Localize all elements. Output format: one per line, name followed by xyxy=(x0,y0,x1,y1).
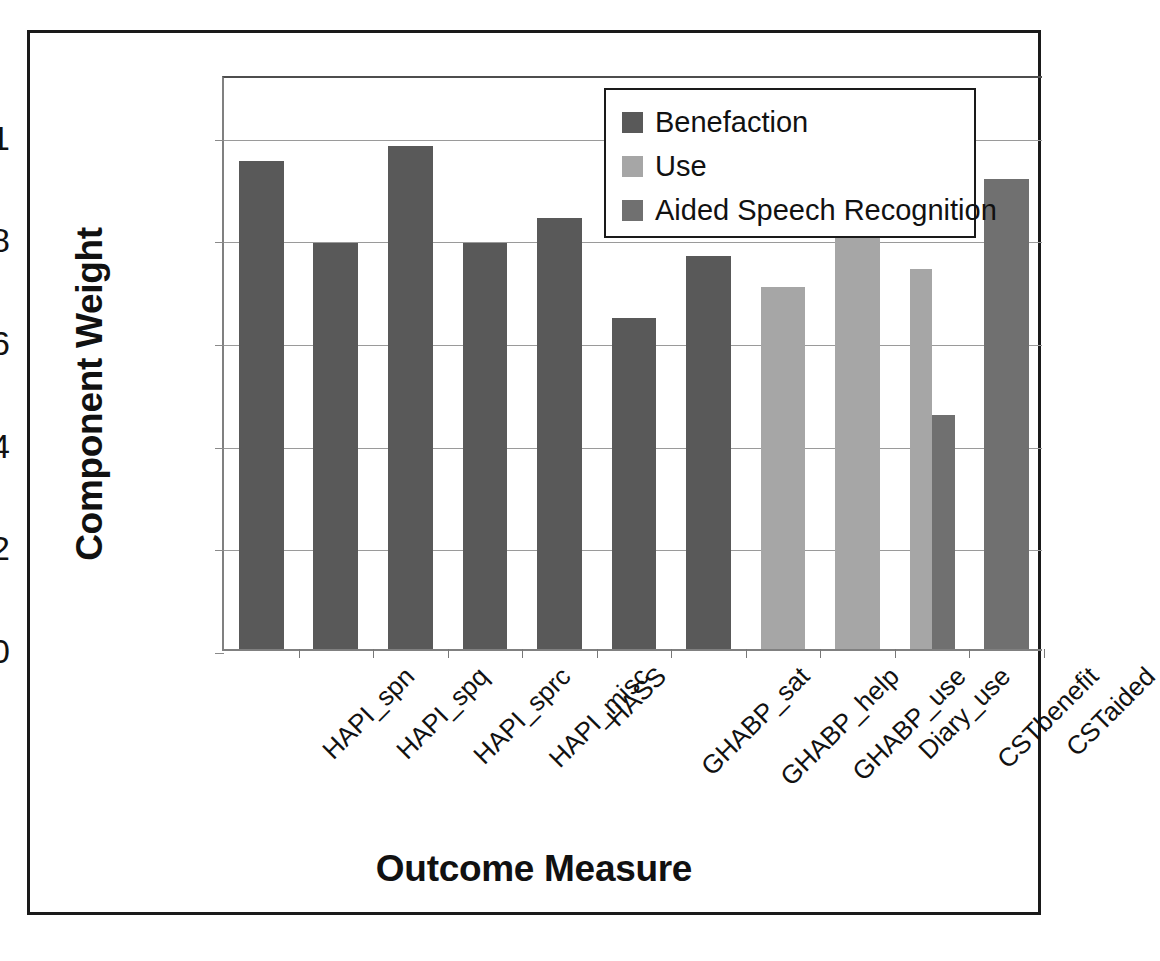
x-axis-tick xyxy=(1044,649,1045,658)
chart-legend: BenefactionUseAided Speech Recognition xyxy=(604,88,976,238)
y-axis-tick xyxy=(215,242,224,243)
legend-swatch-icon xyxy=(622,156,643,177)
y-axis-tick xyxy=(215,550,224,551)
bar xyxy=(761,287,806,649)
x-axis-tick xyxy=(820,649,821,658)
legend-swatch-icon xyxy=(622,112,643,133)
x-axis-tick xyxy=(597,649,598,658)
legend-label: Use xyxy=(655,152,707,181)
legend-label: Benefaction xyxy=(655,108,808,137)
y-axis-tick xyxy=(215,140,224,141)
bar xyxy=(239,161,284,649)
x-axis-tick xyxy=(522,649,523,658)
bar xyxy=(932,415,954,649)
bar xyxy=(537,218,582,649)
y-axis-tick xyxy=(215,448,224,449)
y-axis-tick xyxy=(215,653,224,654)
y-axis-tick xyxy=(215,345,224,346)
legend-item: Benefaction xyxy=(622,100,974,144)
x-axis-tick xyxy=(373,649,374,658)
bar xyxy=(910,269,932,649)
x-axis-title: Outcome Measure xyxy=(30,848,1038,890)
y-axis-tick-label: 0 xyxy=(0,632,10,671)
bar xyxy=(835,238,880,649)
y-axis-title: Component Weight xyxy=(69,134,111,654)
legend-item: Use xyxy=(622,144,974,188)
bar xyxy=(686,256,731,649)
x-axis-tick xyxy=(448,649,449,658)
bar xyxy=(612,318,657,649)
x-axis-tick xyxy=(671,649,672,658)
x-axis-tick xyxy=(299,649,300,658)
y-axis-tick-label: 0.4 xyxy=(0,426,10,465)
bar xyxy=(463,243,508,649)
legend-item: Aided Speech Recognition xyxy=(622,188,974,232)
bar xyxy=(984,179,1029,649)
y-axis-tick-label: 0.6 xyxy=(0,323,10,362)
y-axis-tick-label: 1 xyxy=(0,118,10,157)
x-axis-tick xyxy=(969,649,970,658)
y-axis-tick-label: 0.8 xyxy=(0,221,10,260)
legend-label: Aided Speech Recognition xyxy=(655,196,997,225)
x-axis-tick xyxy=(895,649,896,658)
chart-figure-frame: Component Weight Outcome Measure 00.20.4… xyxy=(27,30,1041,915)
bar xyxy=(313,243,358,649)
x-axis-tick xyxy=(746,649,747,658)
bar xyxy=(388,146,433,649)
legend-swatch-icon xyxy=(622,200,643,221)
y-axis-tick-label: 0.2 xyxy=(0,529,10,568)
